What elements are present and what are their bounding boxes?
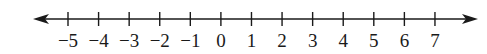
tick-label: 6 <box>400 30 410 52</box>
tick-label: 4 <box>338 30 348 52</box>
tick-label: 7 <box>430 30 440 52</box>
tick-label: 3 <box>308 30 318 52</box>
tick-label: 0 <box>216 30 226 52</box>
tick-label: −3 <box>119 30 139 52</box>
tick-label: 2 <box>277 30 287 52</box>
tick-label: −2 <box>150 30 170 52</box>
tick-label: 5 <box>369 30 379 52</box>
tick-label: 1 <box>247 30 257 52</box>
tick-label: −4 <box>88 30 108 52</box>
tick-label: −1 <box>180 30 200 52</box>
tick-label: −5 <box>58 30 78 52</box>
